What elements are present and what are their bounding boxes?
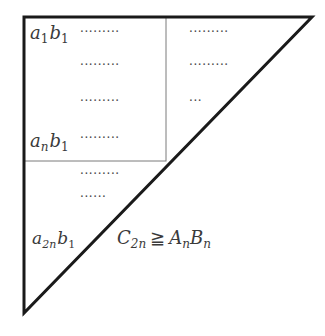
dots-row-box-left: ·········: [80, 131, 120, 145]
dots-row-box-right: ·········: [189, 58, 229, 72]
label-a1b1: a1b1: [30, 22, 69, 46]
dots-row-box-left: ·········: [80, 58, 120, 72]
dots-row-lower: ·········: [80, 167, 120, 181]
outer-triangle: [24, 17, 312, 313]
label-a2nb1: a2nb1: [32, 228, 75, 251]
dots-row-box-left: ·········: [80, 25, 120, 39]
dots-row-lower: ······: [80, 190, 107, 204]
dots-row-box-right: ···: [189, 94, 202, 108]
label-anb1: anb1: [30, 130, 69, 154]
triangle-product-diagram: a1b1 anb1 a2nb1 C2n≧AnBn ········· ·····…: [0, 0, 325, 336]
dots-row-box-left: ·········: [80, 94, 120, 108]
dots-row-box-right: ·········: [189, 25, 229, 39]
inequality-label: C2n≧AnBn: [117, 227, 211, 251]
